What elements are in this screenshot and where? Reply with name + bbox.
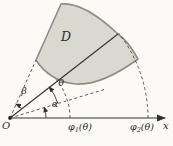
phi1-arg: (θ) [79, 121, 92, 132]
diagram-canvas: D O x β θ α φ1(θ) φ2(θ) [0, 0, 173, 146]
alpha-angle-arc [44, 108, 46, 119]
polar-region-figure: D O x β θ α φ1(θ) φ2(θ) [0, 0, 173, 146]
region-D-shape [36, 4, 138, 84]
region-label: D [60, 29, 71, 44]
phi1-label: φ1(θ) [68, 121, 92, 134]
origin-label: O [2, 120, 10, 131]
beta-label: β [20, 85, 27, 96]
alpha-label: α [52, 98, 59, 109]
phi2-arg: (θ) [141, 121, 154, 132]
phi2-label: φ2(θ) [130, 121, 154, 134]
x-axis-label: x [163, 120, 169, 131]
theta-label: θ [58, 77, 64, 88]
beta-angle-arc [16, 104, 22, 109]
